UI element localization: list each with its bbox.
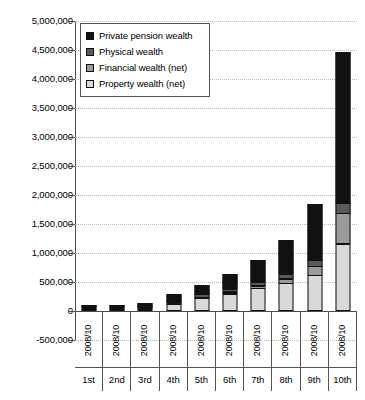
bar-slot: [216, 21, 244, 340]
x-axis-period-text: 2008/10: [197, 325, 206, 356]
x-axis-period-text: 2008/10: [281, 325, 290, 356]
y-axis-tick-label: 3,000,000: [0, 132, 73, 142]
bar-segment: [335, 52, 350, 204]
x-axis: 2008/101st2008/102nd2008/103rd2008/104th…: [75, 311, 357, 390]
bar-slot: [272, 21, 300, 340]
x-axis-cell: 2008/104th: [160, 312, 188, 391]
x-axis-period-label: 2008/10: [244, 314, 271, 368]
x-axis-period-text: 2008/10: [253, 325, 262, 356]
x-axis-decile-label: 1st: [75, 368, 102, 391]
x-axis-decile-label: 5th: [188, 368, 215, 391]
x-axis-period-text: 2008/10: [84, 325, 93, 356]
x-axis-decile-label: 2nd: [103, 368, 130, 391]
stacked-bar[interactable]: [335, 53, 350, 311]
x-axis-decile-label: 7th: [244, 368, 271, 391]
x-axis-cell: 2008/103rd: [131, 312, 159, 391]
legend-item-label: Physical wealth: [99, 47, 163, 57]
y-axis-tick-label: 5,000,000: [0, 16, 73, 26]
x-axis-period-text: 2008/10: [169, 325, 178, 356]
legend-swatch-physical-icon: [86, 48, 94, 56]
legend-swatch-pension-icon: [86, 32, 94, 40]
legend-item[interactable]: Physical wealth: [86, 44, 204, 60]
chart-legend: Private pension wealthPhysical wealthFin…: [80, 23, 210, 97]
legend-swatch-financial-icon: [86, 64, 94, 72]
x-axis-decile-label: 3rd: [131, 368, 158, 391]
x-axis-period-label: 2008/10: [216, 314, 243, 368]
y-axis-tick-label: 3,500,000: [0, 103, 73, 113]
stacked-bar[interactable]: [251, 260, 266, 311]
bar-segment: [194, 298, 209, 311]
bar-slot: [301, 21, 329, 340]
y-axis-tick-label: 500,000: [0, 277, 73, 287]
stacked-bar[interactable]: [307, 205, 322, 311]
x-axis-cell: 2008/102nd: [103, 312, 131, 391]
y-axis-tick-label: 4,500,000: [0, 45, 73, 55]
x-axis-period-text: 2008/10: [140, 325, 149, 356]
x-axis-cell: 2008/109th: [301, 312, 329, 391]
y-axis-tick-label: 2,000,000: [0, 190, 73, 200]
bar-segment: [307, 204, 322, 261]
bar-segment: [251, 260, 266, 283]
bar-segment: [166, 304, 181, 311]
stacked-bar[interactable]: [166, 295, 181, 311]
x-axis-period-label: 2008/10: [329, 314, 356, 368]
bar-segment: [307, 275, 322, 311]
x-axis-period-label: 2008/10: [103, 314, 130, 368]
bar-segment: [223, 294, 238, 311]
bar-slot: [329, 21, 357, 340]
x-axis-decile-label: 4th: [160, 368, 187, 391]
x-axis-decile-label: 8th: [272, 368, 299, 391]
y-axis-tick-label: 1,000,000: [0, 248, 73, 258]
x-axis-period-label: 2008/10: [75, 314, 102, 368]
x-axis-period-text: 2008/10: [338, 325, 347, 356]
x-axis-period-text: 2008/10: [310, 325, 319, 356]
stacked-bar[interactable]: [138, 304, 153, 311]
x-axis-cell: 2008/108th: [272, 312, 300, 391]
legend-item-label: Property wealth (net): [99, 79, 185, 89]
y-axis-tick-label: 1,500,000: [0, 219, 73, 229]
x-axis-cell: 2008/106th: [216, 312, 244, 391]
x-axis-period-label: 2008/10: [301, 314, 328, 368]
y-axis-tick-label: 4,000,000: [0, 74, 73, 84]
x-axis-cell: 2008/107th: [244, 312, 272, 391]
bar-segment: [223, 274, 238, 290]
x-axis-period-text: 2008/10: [225, 325, 234, 356]
legend-item[interactable]: Private pension wealth: [86, 28, 204, 44]
x-axis-decile-label: 6th: [216, 368, 243, 391]
x-axis-period-label: 2008/10: [131, 314, 158, 368]
x-axis-decile-label: 9th: [301, 368, 328, 391]
x-axis-cell: 2008/1010th: [329, 312, 357, 391]
bar-segment: [335, 213, 350, 244]
bar-segment: [335, 244, 350, 311]
x-axis-period-label: 2008/10: [272, 314, 299, 368]
x-axis-period-text: 2008/10: [112, 325, 121, 356]
y-axis-tick-label: -500,000: [0, 335, 73, 345]
stacked-bar[interactable]: [223, 274, 238, 311]
bar-segment: [279, 240, 294, 274]
x-axis-period-label: 2008/10: [160, 314, 187, 368]
bar-slot: [244, 21, 272, 340]
legend-item[interactable]: Property wealth (net): [86, 76, 204, 92]
y-axis-tick-label: 2,500,000: [0, 161, 73, 171]
legend-swatch-property-icon: [86, 80, 94, 88]
x-axis-decile-label: 10th: [329, 368, 356, 391]
x-axis-cell: 2008/101st: [75, 312, 103, 391]
legend-item-label: Private pension wealth: [99, 31, 192, 41]
y-axis-tick-label: 0: [0, 306, 73, 316]
wealth-decile-stacked-bar-chart: 5,000,0004,500,0004,000,0003,500,0003,00…: [0, 0, 365, 400]
x-axis-cell: 2008/105th: [188, 312, 216, 391]
bar-segment: [279, 283, 294, 311]
bar-segment: [251, 288, 266, 311]
stacked-bar[interactable]: [279, 241, 294, 311]
legend-item[interactable]: Financial wealth (net): [86, 60, 204, 76]
x-axis-period-label: 2008/10: [188, 314, 215, 368]
stacked-bar[interactable]: [194, 286, 209, 311]
legend-item-label: Financial wealth (net): [99, 63, 187, 73]
